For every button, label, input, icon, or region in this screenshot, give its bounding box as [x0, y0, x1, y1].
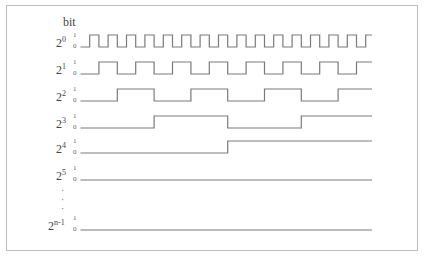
- waveform-bit-1: [81, 62, 373, 74]
- ellipsis-dot-3: ·: [61, 204, 64, 214]
- waveform-bit-2: [81, 89, 373, 101]
- waveform-bit-3: [81, 116, 373, 128]
- waveform-bit-0: [81, 35, 373, 47]
- timing-waveforms: [0, 0, 425, 258]
- waveform-bit-4: [81, 141, 373, 153]
